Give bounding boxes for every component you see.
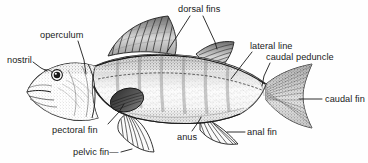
label-operculum: operculum — [40, 30, 83, 40]
label-caudal-fin: caudal fin — [325, 94, 365, 104]
spiny-dorsal-fin — [108, 15, 176, 56]
nostril-leader — [33, 62, 47, 71]
label-lateral-line: lateral line — [250, 41, 292, 51]
pelvic-fin-leader — [121, 149, 132, 152]
caudal-fin — [266, 64, 316, 128]
label-anal-fin: anal fin — [247, 127, 277, 137]
label-pelvic-fin: pelvic fin— — [73, 147, 118, 157]
label-pectoral-fin: pectoral fin — [52, 125, 98, 135]
label-nostril: nostril — [7, 55, 32, 65]
label-dorsal-fins: dorsal fins — [178, 4, 220, 14]
fish-anatomy-diagram: operculum nostril dorsal fins lateral li… — [0, 0, 368, 163]
label-anus: anus — [177, 132, 197, 142]
fish-head — [26, 60, 102, 122]
fish-eye — [52, 70, 63, 81]
label-caudal-peduncle: caudal peduncle — [266, 52, 334, 62]
